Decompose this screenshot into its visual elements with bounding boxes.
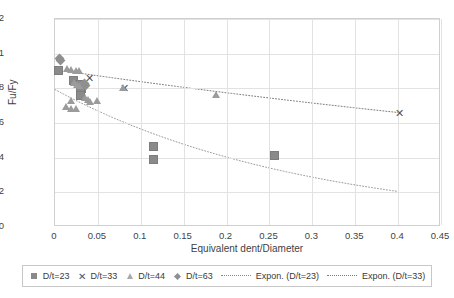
legend-item[interactable]: Expon. (D/t=33) <box>326 271 425 281</box>
gridline-horizontal <box>55 158 439 159</box>
gridline-vertical <box>227 19 228 225</box>
x-axis-tick-label: 0.1 <box>120 231 160 241</box>
gridline-vertical <box>355 19 356 225</box>
legend-item[interactable]: D/t=44 <box>124 271 165 281</box>
x-axis-tick-label: 0.35 <box>334 231 374 241</box>
scatter-chart: ✕✕✕ Fu/Fy Equivalent dent/Diameter D/t=2… <box>0 0 454 298</box>
x-axis-tick-label: 0.45 <box>420 231 454 241</box>
legend-label: D/t=63 <box>186 271 213 281</box>
x-axis-tick-label: 0 <box>34 231 74 241</box>
triangle-marker-icon <box>127 273 133 279</box>
legend-item[interactable]: D/t=63 <box>172 271 213 281</box>
legend-item[interactable]: D/t=23 <box>29 271 70 281</box>
x-axis-title: Equivalent dent/Diameter <box>54 243 440 254</box>
legend-label: D/t=33 <box>90 271 117 281</box>
gridline-vertical <box>184 19 185 225</box>
y-axis-title: Fu/Fy <box>7 79 18 105</box>
dotted-line-icon <box>327 275 357 277</box>
y-axis-tick-label: 1 <box>0 48 4 58</box>
gridline-horizontal <box>55 19 439 20</box>
x-axis-tick-label: 0.4 <box>377 231 417 241</box>
gridline-horizontal <box>55 88 439 89</box>
legend-item[interactable]: Expon. (D/t=23) <box>220 271 319 281</box>
y-axis-tick-label: 0 <box>0 221 4 231</box>
plot-area: ✕✕✕ <box>54 18 440 226</box>
gridline-vertical <box>98 19 99 225</box>
gridline-vertical <box>398 19 399 225</box>
legend-label: Expon. (D/t=23) <box>256 271 319 281</box>
y-axis-tick-label: 0.6 <box>0 117 4 127</box>
legend-label: D/t=23 <box>43 271 70 281</box>
gridline-vertical <box>269 19 270 225</box>
diamond-marker-icon <box>174 272 181 279</box>
gridline-vertical <box>441 19 442 225</box>
y-axis-tick-label: 1.2 <box>0 13 4 23</box>
x-axis-tick-label: 0.05 <box>77 231 117 241</box>
y-axis-tick-label: 0.4 <box>0 152 4 162</box>
square-marker-icon <box>31 273 37 279</box>
gridline-vertical <box>312 19 313 225</box>
x-axis-tick-label: 0.2 <box>206 231 246 241</box>
y-axis-tick-label: 0.8 <box>0 82 4 92</box>
dotted-line-icon <box>221 275 251 277</box>
y-axis-tick-label: 0.2 <box>0 186 4 196</box>
legend-label: Expon. (D/t=33) <box>362 271 425 281</box>
x-marker-icon: ✕ <box>78 272 86 281</box>
chart-legend: D/t=23✕D/t=33D/t=44D/t=63Expon. (D/t=23)… <box>22 265 432 287</box>
gridline-horizontal <box>55 54 439 55</box>
legend-item[interactable]: ✕D/t=33 <box>76 271 117 281</box>
x-axis-tick-label: 0.15 <box>163 231 203 241</box>
gridline-vertical <box>141 19 142 225</box>
x-axis-tick-label: 0.25 <box>248 231 288 241</box>
gridline-horizontal <box>55 192 439 193</box>
legend-label: D/t=44 <box>138 271 165 281</box>
x-axis-tick-label: 0.3 <box>291 231 331 241</box>
trendline <box>58 70 399 112</box>
gridline-horizontal <box>55 123 439 124</box>
